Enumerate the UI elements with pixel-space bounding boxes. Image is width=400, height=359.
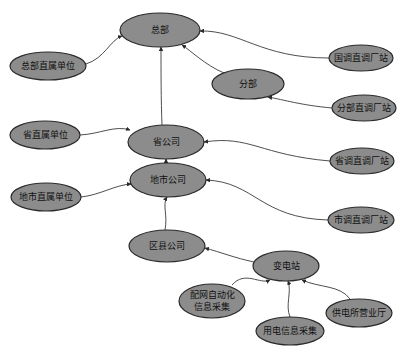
- arrow-connector: [200, 31, 329, 58]
- node-usage-collect[interactable]: 用电信息采集: [256, 317, 324, 345]
- node-substation[interactable]: 变电站: [253, 251, 319, 281]
- arrow-connector: [80, 128, 130, 135]
- node-label-line1: 配网自动化: [190, 289, 235, 300]
- edge-province_plants-to-province: [204, 141, 330, 161]
- node-label: 地市直属单位: [19, 191, 73, 202]
- node-label: 区县公司: [149, 241, 185, 251]
- edge-branch_plants-to-branch: [268, 97, 332, 108]
- arrow-connector: [302, 280, 350, 299]
- node-hq-direct[interactable]: 总部直属单位: [10, 52, 86, 80]
- arrow-connector: [86, 36, 122, 64]
- node-label: 省直属单位: [23, 129, 68, 140]
- node-label: 地市公司: [150, 174, 186, 185]
- edge-usage_collect-to-substation: [288, 281, 290, 317]
- node-city[interactable]: 地市公司: [130, 163, 206, 197]
- arrow-connector: [182, 45, 224, 73]
- arrow-connector: [161, 47, 162, 125]
- edge-county-to-city: [165, 197, 167, 230]
- edge-city_direct-to-city: [81, 184, 131, 197]
- node-label: 国调直调厂站: [334, 52, 388, 63]
- node-label-line2: 信息采集: [194, 301, 230, 312]
- edge-hq_direct-to-hq: [86, 36, 122, 64]
- node-label: 总部: [151, 24, 169, 35]
- node-branch-plants[interactable]: 分部直调厂站: [332, 95, 396, 121]
- node-label: 总部直属单位: [21, 60, 75, 71]
- hierarchy-diagram: 总部总部直属单位国调直调厂站分部分部直调厂站省公司省直属单位省调直调厂站地市公司…: [0, 0, 400, 359]
- node-label: 省公司: [153, 136, 180, 147]
- edge-dist_auto-to-substation: [232, 278, 270, 285]
- arrow-connector: [165, 197, 167, 230]
- node-label: 省调直调厂站: [335, 155, 389, 166]
- arrow-connector: [206, 180, 328, 220]
- node-dist-auto[interactable]: 配网自动化信息采集: [179, 284, 245, 318]
- node-label: 分部直调厂站: [337, 102, 391, 113]
- edge-province-to-hq: [161, 47, 162, 125]
- edge-branch-to-hq: [182, 45, 224, 73]
- node-service-hall[interactable]: 供电所营业厅: [326, 299, 392, 327]
- node-label: 市调直调厂站: [334, 214, 388, 225]
- node-province-plants[interactable]: 省调直调厂站: [330, 148, 394, 174]
- arrow-connector: [268, 97, 332, 108]
- arrow-connector: [81, 184, 131, 197]
- node-branch[interactable]: 分部: [212, 69, 284, 99]
- node-label: 分部: [239, 78, 257, 89]
- node-province-direct[interactable]: 省直属单位: [10, 121, 80, 149]
- node-national-plants[interactable]: 国调直调厂站: [329, 45, 393, 71]
- edge-national_plants-to-hq: [200, 31, 329, 58]
- nodes-layer: 总部总部直属单位国调直调厂站分部分部直调厂站省公司省直属单位省调直调厂站地市公司…: [10, 13, 396, 345]
- node-city-plants[interactable]: 市调直调厂站: [328, 207, 394, 233]
- node-label: 变电站: [273, 260, 300, 271]
- edge-city_plants-to-city: [206, 180, 328, 220]
- edge-service_hall-to-substation: [302, 280, 350, 299]
- arrow-connector: [288, 281, 290, 317]
- arrow-connector: [232, 278, 270, 285]
- node-hq[interactable]: 总部: [120, 13, 200, 47]
- node-label: 供电所营业厅: [332, 307, 386, 318]
- node-province[interactable]: 省公司: [128, 125, 204, 159]
- node-label: 用电信息采集: [263, 325, 317, 336]
- edge-substation-to-county: [205, 248, 254, 262]
- node-city-direct[interactable]: 地市直属单位: [11, 183, 81, 211]
- node-county[interactable]: 区县公司: [129, 230, 205, 262]
- edge-province_direct-to-province: [80, 128, 130, 135]
- arrow-connector: [204, 141, 330, 161]
- arrow-connector: [205, 248, 254, 262]
